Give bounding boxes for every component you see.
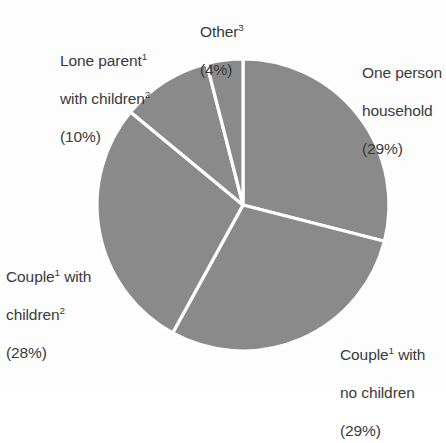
pie-label-couple-no-children-line1: Couple1 with xyxy=(340,346,425,365)
pie-label-lone-parent-line2: with children2 xyxy=(60,90,150,109)
pie-label-other-line1: Other3 xyxy=(200,23,244,42)
pie-label-lone-parent-with-children: Lone parent1 with children2 (10%) xyxy=(60,33,150,165)
footnote-marker-2: 2 xyxy=(59,305,64,316)
pie-label-lone-parent-value: (10%) xyxy=(60,128,150,147)
footnote-marker-1: 1 xyxy=(142,51,147,62)
pie-label-couple-children-line1: Couple1 with xyxy=(6,268,91,287)
pie-label-couple-no-children-line2: no children xyxy=(340,384,425,403)
pie-label-other: Other3 (4%) xyxy=(200,4,244,99)
pie-label-one-person-household: One person household (29%) xyxy=(362,45,442,177)
pie-label-couple-no-children: Couple1 with no children (29%) xyxy=(340,327,425,443)
pie-label-one-person-value: (29%) xyxy=(362,140,442,159)
pie-label-one-person-line2: household xyxy=(362,102,442,121)
pie-label-couple-children-line2: children2 xyxy=(6,306,91,325)
pie-label-one-person-line1: One person xyxy=(362,64,442,83)
footnote-marker-3: 3 xyxy=(238,22,243,33)
pie-label-couple-no-children-value: (29%) xyxy=(340,422,425,441)
pie-label-lone-parent-line1: Lone parent1 xyxy=(60,52,150,71)
pie-label-other-value: (4%) xyxy=(200,61,244,80)
footnote-marker-2: 2 xyxy=(145,89,150,100)
pie-label-couple-with-children: Couple1 with children2 (28%) xyxy=(6,249,91,381)
pie-label-couple-children-value: (28%) xyxy=(6,344,91,363)
